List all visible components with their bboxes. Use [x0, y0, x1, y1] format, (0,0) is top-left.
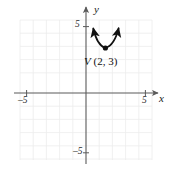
vertex-point	[103, 45, 108, 50]
graph-canvas	[0, 0, 174, 171]
vertex-letter: V	[84, 55, 91, 67]
vertex-annotation: V (2, 3)	[84, 56, 117, 67]
y-axis-tick-negative-5: –5	[73, 147, 83, 157]
x-axis-tick-5: 5	[142, 96, 147, 106]
x-axis-tick-negative-5: –5	[18, 96, 28, 106]
x-axis-label: x	[159, 93, 164, 104]
axis-lines	[14, 7, 158, 164]
vertex-coordinates: (2, 3)	[93, 55, 117, 67]
y-axis-tick-5: 5	[75, 20, 80, 30]
parabola-curve	[93, 28, 118, 50]
coordinate-plane-figure: y x 5 –5 –5 5 V (2, 3)	[0, 0, 174, 171]
y-axis-label: y	[94, 4, 99, 15]
